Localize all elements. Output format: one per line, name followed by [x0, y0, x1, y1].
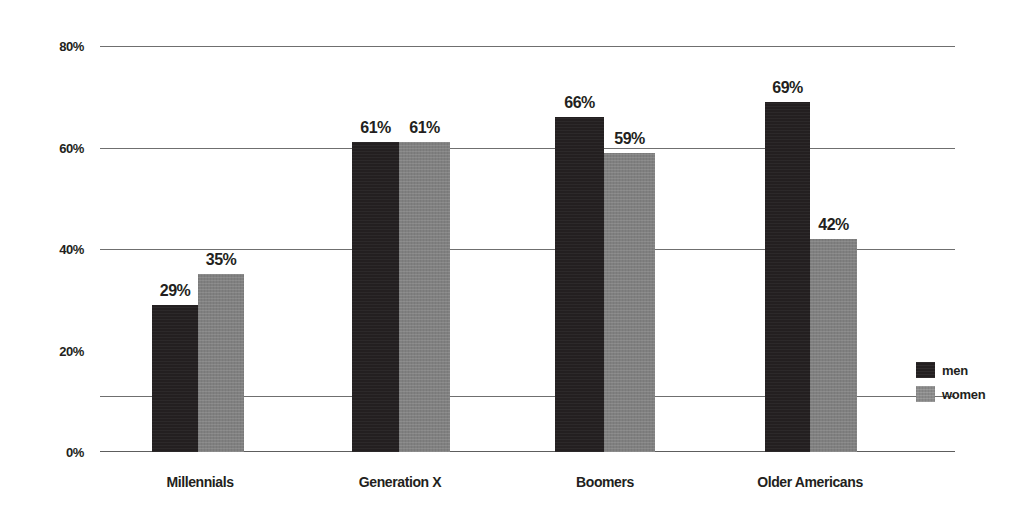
bar-group-boomers: 66% 59%	[555, 46, 655, 452]
x-axis-label-millennials: Millennials	[166, 474, 233, 490]
bar-group-millennials: 29% 35%	[152, 46, 248, 452]
bar-women-generation-x[interactable]: 61%	[399, 142, 450, 452]
x-axis-label-boomers: Boomers	[576, 474, 634, 490]
legend-swatch-women-icon	[916, 386, 935, 402]
legend-item-men[interactable]: men	[916, 358, 985, 382]
x-axis-label-older-americans: Older Americans	[757, 474, 863, 490]
chart-legend: men women	[916, 358, 985, 406]
y-tick-label-40: 40%	[22, 242, 84, 257]
legend-item-women[interactable]: women	[916, 382, 985, 406]
bar-value-women-older-americans: 42%	[816, 216, 851, 234]
bar-women-millennials[interactable]: 35%	[198, 274, 244, 452]
bar-men-boomers[interactable]: 66%	[555, 117, 604, 452]
x-axis-label-generation-x: Generation X	[359, 474, 441, 490]
bar-value-men-millennials: 29%	[158, 282, 193, 300]
legend-label-women: women	[942, 387, 985, 402]
bar-chart: 0% 20% 40% 60% 80% 29% 35% 61% 61%	[0, 0, 1025, 529]
bar-men-millennials[interactable]: 29%	[152, 305, 198, 452]
legend-swatch-men-icon	[916, 362, 935, 378]
y-axis-tick-labels: 0% 20% 40% 60% 80%	[22, 46, 84, 452]
bar-group-generation-x: 61% 61%	[352, 46, 448, 452]
bar-men-generation-x[interactable]: 61%	[352, 142, 399, 452]
bar-men-older-americans[interactable]: 69%	[765, 102, 810, 452]
y-tick-label-60: 60%	[22, 140, 84, 155]
bar-value-women-millennials: 35%	[204, 251, 239, 269]
bar-value-men-boomers: 66%	[562, 94, 597, 112]
legend-label-men: men	[942, 363, 968, 378]
bar-group-older-americans: 69% 42%	[765, 46, 855, 452]
bar-women-older-americans[interactable]: 42%	[810, 239, 857, 452]
bar-women-boomers[interactable]: 59%	[604, 153, 655, 452]
plot-area: 29% 35% 61% 61% 66% 59%	[100, 46, 955, 452]
bar-value-women-boomers: 59%	[612, 130, 647, 148]
y-tick-label-0: 0%	[22, 445, 84, 460]
bar-value-men-generation-x: 61%	[358, 119, 393, 137]
y-tick-label-20: 20%	[22, 343, 84, 358]
bar-value-men-older-americans: 69%	[770, 79, 805, 97]
y-tick-label-80: 80%	[22, 39, 84, 54]
bar-value-women-generation-x: 61%	[407, 119, 442, 137]
